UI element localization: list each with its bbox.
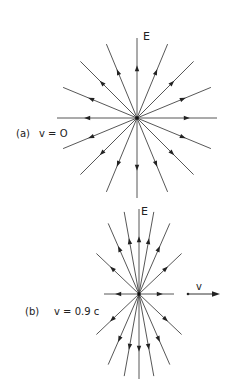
panel-b-field-arrowhead <box>157 292 163 296</box>
panel-b-field-arrowhead <box>128 344 132 350</box>
panel-a-stationary-charge <box>57 38 217 198</box>
panel-b-field-arrowhead <box>156 246 160 252</box>
panel-a-field-arrowhead <box>153 69 157 75</box>
velocity-arrow-label: v <box>196 281 202 292</box>
panel-a-charge <box>135 116 139 120</box>
panel-a-field-label: E <box>143 30 150 43</box>
panel-a-velocity-label: v = O <box>39 128 68 139</box>
panel-a-field-arrowhead <box>153 160 157 166</box>
panel-a-field-line <box>137 118 194 175</box>
panel-b-field-arrowhead <box>137 236 141 242</box>
panel-a-field-arrowhead <box>135 65 139 71</box>
panel-a-label: (a) <box>16 128 30 139</box>
velocity-arrow <box>187 291 220 296</box>
panel-b-charge <box>137 292 141 296</box>
panel-b-field-arrowhead <box>128 238 132 244</box>
panel-a-field-line <box>80 61 137 118</box>
panel-b-field-arrowhead <box>137 346 141 352</box>
panel-b-field-arrowhead <box>146 238 150 244</box>
panel-b-field-arrowhead <box>146 344 150 350</box>
panel-b-field-line <box>108 294 139 365</box>
panel-a-field-arrowhead <box>179 134 185 138</box>
panel-a-field-arrowhead <box>84 116 90 120</box>
panel-a-field-arrowhead <box>135 165 139 171</box>
panel-b-field-label: E <box>141 205 148 218</box>
panel-b-field-line <box>139 223 170 294</box>
panel-b-field-arrowhead <box>118 246 122 252</box>
panel-a-field-arrowhead <box>117 160 121 166</box>
field-lines-diagram: E (a) v = O E (b) v = 0.9 c v <box>0 0 232 391</box>
panel-a-field-line <box>80 118 137 175</box>
panel-b-velocity-label: v = 0.9 c <box>54 306 99 317</box>
panel-a-field-arrowhead <box>184 116 190 120</box>
velocity-arrow-head <box>212 291 220 296</box>
panel-b-label: (b) <box>25 306 39 317</box>
panel-a-field-line <box>137 61 194 118</box>
panel-b-field-line <box>108 223 139 294</box>
panel-b-field-arrowhead <box>156 336 160 342</box>
panel-a-field-arrowhead <box>117 69 121 75</box>
panel-b-field-line <box>139 294 170 365</box>
panel-b-moving-charge <box>96 209 181 379</box>
panel-a-field-arrowhead <box>88 134 94 138</box>
panel-a-field-arrowhead <box>88 98 94 102</box>
panel-b-field-arrowhead <box>118 336 122 342</box>
panel-b-field-arrowhead <box>115 292 121 296</box>
panel-a-field-arrowhead <box>179 98 185 102</box>
